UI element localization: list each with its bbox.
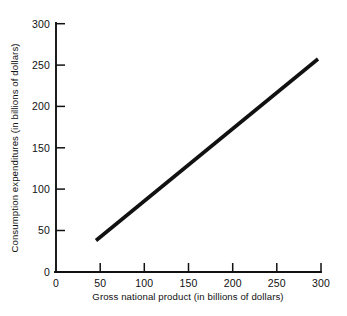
line-chart-canvas: 300 250 200 150 100 50 0 0 50 100 150 20… — [0, 0, 347, 316]
x-axis-ticks — [100, 263, 321, 272]
y-tick-label-150: 150 — [32, 142, 50, 154]
data-series-consumption-function — [96, 59, 318, 241]
y-tick-label-200: 200 — [32, 100, 50, 112]
y-tick-label-300: 300 — [32, 18, 50, 30]
x-tick-label-50: 50 — [94, 277, 106, 289]
chart-figure: 300 250 200 150 100 50 0 0 50 100 150 20… — [0, 0, 347, 316]
x-tick-label-150: 150 — [179, 277, 197, 289]
x-tick-label-200: 200 — [224, 277, 242, 289]
x-axis-title: Gross national product (in billions of d… — [92, 291, 283, 302]
y-tick-label-50: 50 — [38, 224, 50, 236]
x-tick-label-300: 300 — [312, 277, 330, 289]
x-tick-label-0: 0 — [53, 277, 59, 289]
y-axis-title: Consumption expenditures (in billions of… — [9, 43, 20, 252]
x-tick-label-250: 250 — [268, 277, 286, 289]
x-tick-label-100: 100 — [135, 277, 153, 289]
x-tick-labels: 0 50 100 150 200 250 300 — [53, 277, 330, 289]
y-tick-label-0: 0 — [44, 266, 50, 278]
y-tick-labels: 300 250 200 150 100 50 0 — [32, 18, 50, 278]
y-tick-label-250: 250 — [32, 59, 50, 71]
y-axis-ticks — [56, 24, 65, 231]
y-tick-label-100: 100 — [32, 183, 50, 195]
